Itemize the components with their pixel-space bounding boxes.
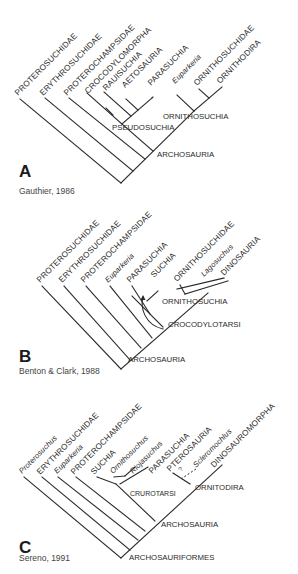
node-label: ARCHOSAURIFORMES — [129, 553, 214, 562]
panel-letter: B — [19, 347, 31, 366]
branch-line — [86, 286, 141, 348]
node-label: ORNITHOSUCHIA — [163, 112, 229, 121]
node-label: ORNITHOSUCHIA — [162, 297, 228, 306]
branch-line — [121, 465, 222, 558]
branch-line — [185, 281, 228, 294]
branch-line — [20, 99, 121, 183]
branch-line — [42, 477, 130, 550]
branch-line — [114, 476, 125, 477]
citation: Sereno, 1991 — [19, 553, 70, 563]
branch-line — [177, 95, 194, 111]
citation: Benton & Clark, 1988 — [19, 366, 100, 376]
branch-line — [45, 98, 133, 171]
panel-a-cladogram: PROTEROSUCHIDAE ERYTHROSUCHIDAE PROTEROC… — [13, 23, 263, 196]
node-label: CROCODYLOTARSI — [168, 320, 241, 329]
uncertain-marker: ? — [177, 465, 185, 473]
panel-c-branches — [24, 465, 222, 558]
node-label: CRUROTARSI — [130, 490, 176, 497]
node-label: ARCHOSAURIA — [157, 150, 215, 159]
node-label: PSEUDOSUCHIA — [112, 123, 175, 132]
node-label: ORNITODIRA — [195, 483, 245, 492]
panel-letter: A — [19, 162, 31, 181]
branch-line — [110, 286, 152, 338]
arrow-head-icon — [141, 295, 146, 300]
node-label: ARCHOSAURIA — [128, 355, 186, 364]
branch-line — [126, 99, 138, 110]
branch-line — [64, 286, 130, 360]
citation: Gauthier, 1986 — [19, 186, 75, 196]
cladogram-figure: PROTEROSUCHIDAE ERYTHROSUCHIDAE PROTEROC… — [0, 0, 298, 574]
branch-line — [199, 89, 209, 98]
branch-line — [24, 477, 121, 558]
branch-line — [42, 286, 121, 369]
branch-line — [76, 477, 145, 531]
node-label: ARCHOSAURIA — [161, 520, 219, 529]
panel-a-branches — [20, 87, 222, 183]
branch-line — [87, 93, 122, 124]
panel-b-cladogram: PROTEROSUCHIDAE ERYTHROSUCHIDAE PROTEROC… — [19, 210, 262, 376]
branch-line — [104, 92, 131, 116]
branch-line — [152, 97, 153, 98]
branch-line — [121, 111, 194, 183]
branch-line — [122, 98, 152, 124]
branch-line — [106, 108, 113, 115]
branch-line — [177, 278, 224, 289]
branch-line — [147, 291, 158, 301]
branch-line — [180, 285, 185, 294]
branch-line — [194, 87, 222, 111]
branch-line — [97, 477, 116, 484]
branch-line — [58, 477, 138, 540]
panel-c-cladogram: Proterosuchus ERYTHROSUCHIDAE Euparkeria… — [17, 401, 277, 563]
